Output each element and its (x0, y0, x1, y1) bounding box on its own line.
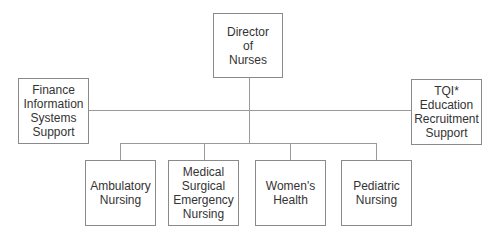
box-line: Nursing (353, 193, 400, 207)
tqi-education-box: TQI* Education Recruitment Support (411, 79, 482, 145)
director-of-nurses-box: Director of Nurses (213, 13, 283, 78)
finance-info-systems-box: Finance Information Systems Support (18, 78, 89, 144)
child-drop-ambulatory (120, 143, 121, 160)
pediatric-nursing-box: Pediatric Nursing (341, 160, 412, 226)
womens-health-box: Women's Health (255, 160, 326, 226)
child-drop-pediatric (376, 143, 377, 160)
box-line: Nurses (227, 53, 269, 67)
box-line: Medical (173, 165, 234, 179)
box-line: Support (414, 126, 479, 140)
ambulatory-nursing-box: Ambulatory Nursing (85, 160, 156, 226)
staff-connector (88, 110, 411, 111)
box-line: Support (23, 125, 83, 139)
box-line: Nursing (90, 193, 151, 207)
children-bus-connector (120, 143, 377, 144)
box-line: Pediatric (353, 179, 400, 193)
box-line: Surgical (173, 179, 234, 193)
box-line: TQI* (414, 84, 479, 98)
box-line: of (227, 39, 269, 53)
child-drop-womens (290, 143, 291, 160)
box-line: Systems (23, 111, 83, 125)
box-line: Finance (23, 83, 83, 97)
box-line: Emergency (173, 193, 234, 207)
box-line: Director (227, 25, 269, 39)
box-line: Nursing (173, 207, 234, 221)
box-line: Women's (266, 179, 315, 193)
box-line: Recruitment (414, 112, 479, 126)
box-line: Education (414, 98, 479, 112)
medical-surgical-emergency-box: Medical Surgical Emergency Nursing (168, 160, 239, 226)
child-drop-medical (204, 143, 205, 160)
box-line: Information (23, 97, 83, 111)
box-line: Health (266, 193, 315, 207)
box-line: Ambulatory (90, 179, 151, 193)
